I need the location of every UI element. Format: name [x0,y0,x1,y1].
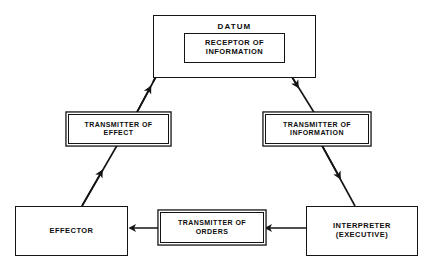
edge-effector-to-transmitter-effect [82,146,117,207]
node-datum-label: DATUM [218,22,252,31]
diagram-canvas: DATUM RECEPTOR OF INFORMATION TRANSMITTE… [0,0,433,275]
node-effector[interactable]: EFFECTOR [15,206,128,256]
node-transmitter-of-effect[interactable]: TRANSMITTER OF EFFECT [68,114,169,144]
node-transmitter-of-orders-label: TRANSMITTER OF ORDERS [178,219,246,236]
node-effector-label: EFFECTOR [50,227,94,236]
edge-transmitter-information-to-interpreter [322,146,355,207]
node-transmitter-of-information[interactable]: TRANSMITTER OF INFORMATION [265,114,369,144]
node-receptor-of-information-label: RECEPTOR OF INFORMATION [205,39,264,57]
node-receptor-of-information[interactable]: RECEPTOR OF INFORMATION [184,33,285,63]
node-interpreter-executive-label: INTERPRETER (EXECUTIVE) [333,222,391,240]
node-transmitter-of-information-label: TRANSMITTER OF INFORMATION [283,121,351,138]
node-interpreter-executive[interactable]: INTERPRETER (EXECUTIVE) [306,206,418,256]
node-transmitter-of-orders[interactable]: TRANSMITTER OF ORDERS [160,212,264,243]
node-transmitter-of-effect-label: TRANSMITTER OF EFFECT [84,121,152,138]
